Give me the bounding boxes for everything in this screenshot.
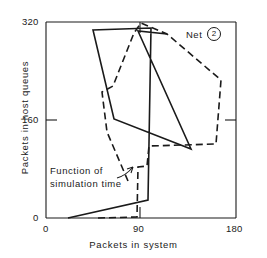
- function-of-simulation-time-annotation: Function of simulation time: [50, 165, 122, 190]
- ytick-label-320: 320: [22, 16, 38, 27]
- xtick-label-180: 180: [226, 223, 242, 234]
- net-number-badge: 2: [207, 27, 221, 41]
- plot-canvas: [0, 0, 267, 258]
- net-annotation-text: Net: [186, 29, 202, 40]
- ytick-label-0: 0: [33, 212, 38, 223]
- y-axis-title: Packets in host queues: [19, 38, 30, 198]
- xtick-label-0: 0: [43, 223, 48, 234]
- x-axis-title: Packets in system: [0, 239, 267, 250]
- function-annotation-line1: Function of: [50, 165, 122, 178]
- function-annotation-line2: simulation time: [50, 178, 122, 191]
- xtick-label-90: 90: [133, 223, 144, 234]
- chart-figure: 320 160 0 0 90 180 Packets in system Pac…: [0, 0, 267, 258]
- net-annotation: Net 2: [186, 27, 221, 41]
